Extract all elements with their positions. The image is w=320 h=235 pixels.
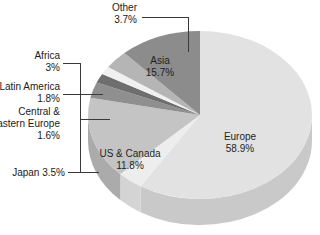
label-other-pct: 3.7% — [114, 14, 137, 25]
label-asia-pct: 15.7% — [146, 67, 174, 78]
label-europe-name: Europe — [224, 131, 257, 142]
label-cee-name-line1: Central & — [18, 106, 60, 117]
label-europe-pct: 58.9% — [226, 143, 254, 154]
label-cee-name-line2: Eastern Europe — [0, 118, 60, 129]
label-africa-pct: 3% — [46, 62, 61, 73]
label-africa-name: Africa — [34, 50, 60, 61]
label-other-name: Other — [112, 2, 138, 13]
label-latin-america-name: Latin America — [0, 81, 60, 92]
label-japan: Japan 3.5% — [12, 167, 65, 178]
label-asia-name: Asia — [150, 55, 170, 66]
label-us-canada-name: US & Canada — [99, 148, 161, 159]
label-latin-america-pct: 1.8% — [37, 93, 60, 104]
label-cee-pct: 1.6% — [37, 130, 60, 141]
pie-chart-svg: Other 3.7% Africa 3% Latin America 1.8% … — [0, 0, 320, 235]
pie-slices — [88, 31, 312, 199]
pie-chart-figure: Other 3.7% Africa 3% Latin America 1.8% … — [0, 0, 320, 235]
label-us-canada-pct: 11.8% — [116, 160, 144, 171]
